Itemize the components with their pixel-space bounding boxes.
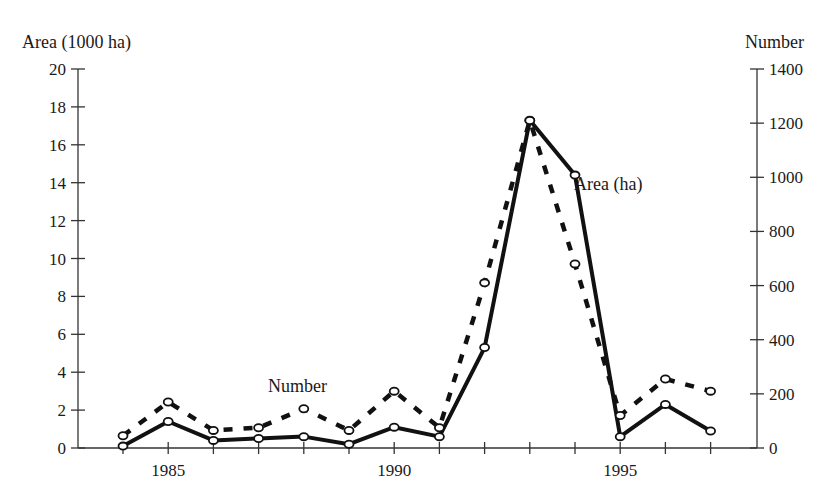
left-y-tick-label: 16: [49, 136, 66, 155]
right-y-tick-label: 1200: [769, 114, 803, 133]
series-layer: [119, 117, 716, 450]
area-data-point: [480, 344, 489, 351]
x-tick-label: 1995: [603, 461, 637, 480]
left-y-tick-label: 6: [58, 325, 67, 344]
number-data-point: [616, 412, 625, 419]
area-data-point: [435, 433, 444, 440]
number-data-point: [571, 260, 580, 267]
number-data-point: [435, 424, 444, 431]
number-data-point: [525, 117, 534, 124]
number-data-point: [480, 279, 489, 286]
number-data-point: [209, 427, 218, 434]
right-y-tick-label: 0: [769, 439, 778, 458]
chart-canvas: 0246810121416182002004006008001000120014…: [0, 0, 839, 503]
left-y-tick-label: 12: [49, 212, 66, 231]
left-y-tick-label: 14: [49, 174, 67, 193]
number-data-point: [119, 432, 128, 439]
left-y-tick-label: 2: [58, 401, 67, 420]
right-y-tick-label: 200: [769, 385, 795, 404]
right-y-tick-label: 400: [769, 331, 795, 350]
area-data-point: [119, 443, 128, 450]
area-data-point: [254, 435, 263, 442]
labels-layer: Area (1000 ha) Number Area (ha) Number: [22, 32, 804, 396]
left-y-tick-label: 10: [49, 250, 66, 269]
area-series-line: [123, 120, 711, 446]
left-axis-title: Area (1000 ha): [22, 32, 131, 53]
area-data-point: [345, 441, 354, 448]
number-data-point: [345, 427, 354, 434]
area-data-point: [616, 433, 625, 440]
number-series-label: Number: [268, 376, 327, 396]
left-y-tick-label: 4: [58, 363, 67, 382]
right-y-tick-label: 600: [769, 277, 795, 296]
number-series-line: [123, 120, 711, 435]
right-y-tick-label: 800: [769, 222, 795, 241]
number-data-point: [299, 405, 308, 412]
area-data-point: [390, 424, 399, 431]
x-tick-label: 1990: [377, 461, 411, 480]
left-y-tick-label: 8: [58, 287, 67, 306]
area-data-point: [661, 401, 670, 408]
right-y-tick-label: 1000: [769, 168, 803, 187]
area-data-point: [209, 437, 218, 444]
number-data-point: [390, 388, 399, 395]
right-y-tick-label: 1400: [769, 60, 803, 79]
number-data-point: [254, 424, 263, 431]
left-y-tick-label: 18: [49, 98, 66, 117]
area-data-point: [299, 433, 308, 440]
area-series-label: Area (ha): [574, 174, 642, 195]
area-data-point: [706, 427, 715, 434]
number-data-point: [706, 388, 715, 395]
right-axis-title: Number: [745, 32, 804, 52]
area-data-point: [164, 418, 173, 425]
number-data-point: [661, 375, 670, 382]
number-data-point: [164, 398, 173, 405]
left-y-tick-label: 20: [49, 60, 66, 79]
x-tick-label: 1985: [151, 461, 185, 480]
left-y-tick-label: 0: [58, 439, 67, 458]
dual-axis-line-chart: 0246810121416182002004006008001000120014…: [0, 0, 839, 503]
